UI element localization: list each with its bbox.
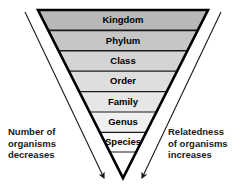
caption-relatedness-of-organisms: Relatedness of organisms increases — [168, 126, 246, 161]
band-label-family: Family — [108, 96, 139, 107]
taxonomy-pyramid-figure: Kingdom Phylum Class Order Family Genus … — [0, 0, 246, 191]
pyramid-diagram: Kingdom Phylum Class Order Family Genus … — [0, 0, 246, 191]
band-label-kingdom: Kingdom — [102, 14, 143, 25]
band-label-class: Class — [110, 55, 135, 66]
band-label-genus: Genus — [108, 116, 138, 127]
band-label-order: Order — [110, 75, 136, 86]
band-label-species: Species — [105, 136, 141, 147]
caption-number-of-organisms: Number of organisms decreases — [8, 126, 82, 161]
band-label-phylum: Phylum — [106, 35, 140, 46]
